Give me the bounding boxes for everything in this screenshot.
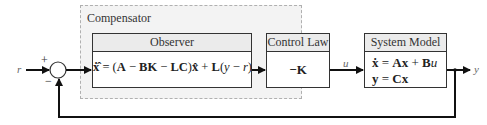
control-signal-label: u [343, 57, 349, 69]
summing-junction [50, 62, 66, 78]
minus-sign: − [45, 74, 52, 89]
pickoff-point [453, 68, 457, 72]
plus-sign: + [41, 53, 48, 68]
feedback-path [59, 70, 455, 117]
signal-wires [0, 0, 487, 125]
input-signal-label: r [17, 63, 21, 75]
output-signal-label: y [474, 63, 479, 75]
